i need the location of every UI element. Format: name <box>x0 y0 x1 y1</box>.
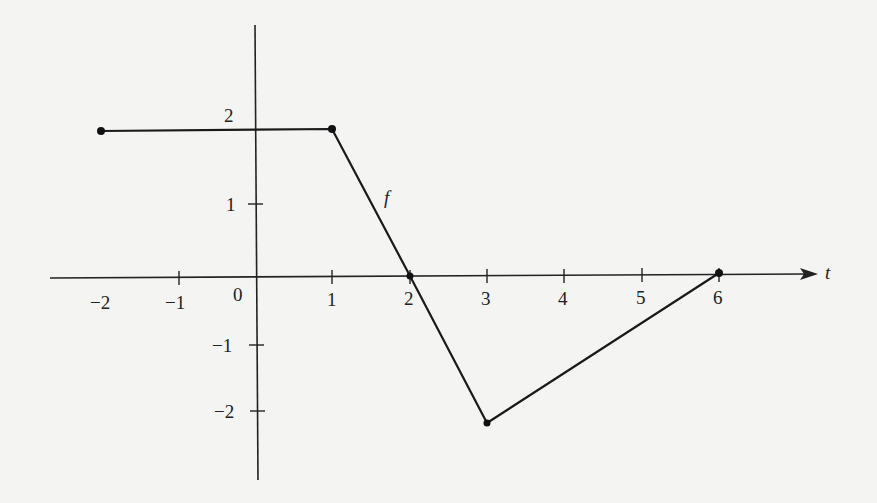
x-tick-label: 4 <box>558 288 568 309</box>
y-tick-label: −2 <box>214 401 234 422</box>
function-graph: −2 −1 0 1 2 3 4 5 6 t 2 1 −1 −2 f <box>0 0 877 503</box>
graph-canvas: −2 −1 0 1 2 3 4 5 6 t 2 1 −1 −2 f <box>0 0 877 503</box>
y-tick-label: −1 <box>212 335 232 356</box>
x-tick-label: −1 <box>165 292 185 313</box>
curve-label-f: f <box>384 187 392 208</box>
origin-label: 0 <box>233 284 243 305</box>
x-tick-label: 2 <box>404 288 414 309</box>
x-axis-label: t <box>825 262 831 283</box>
data-points <box>97 125 723 427</box>
x-tick-label: 5 <box>636 287 646 308</box>
x-tick-label: 6 <box>713 287 723 308</box>
y-tick-label: 1 <box>226 194 236 215</box>
x-tick-label: 3 <box>481 288 491 309</box>
x-axis <box>50 274 805 278</box>
x-tick-label: 1 <box>327 289 337 310</box>
y-axis <box>255 25 258 480</box>
x-tick-label: −2 <box>90 292 110 313</box>
y-tick-label: 2 <box>224 105 234 126</box>
